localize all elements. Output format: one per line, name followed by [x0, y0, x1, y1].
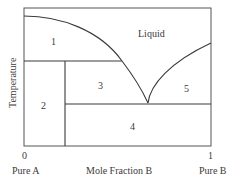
region-2-label: 2 [41, 100, 46, 111]
x-tick-0: 0 [22, 150, 27, 161]
pure-a-label: Pure A [12, 165, 40, 176]
x-tick-1: 1 [208, 150, 213, 161]
region-1-label: 1 [51, 36, 56, 47]
region-4-label: 4 [130, 121, 135, 132]
liquidus-curve-right [148, 43, 211, 103]
y-axis-label: Temperature [7, 57, 18, 108]
plot-frame [24, 8, 211, 146]
liquidus-curve-left [24, 16, 148, 103]
pure-b-label: Pure B [199, 165, 227, 176]
x-axis-label: Mole Fraction B [86, 165, 152, 176]
region-liquid-label: Liquid [138, 28, 165, 39]
phase-diagram: Liquid 1 2 3 4 5 Temperature 0 1 Pure A … [0, 0, 234, 183]
region-3-label: 3 [98, 80, 103, 91]
region-5-label: 5 [184, 83, 189, 94]
